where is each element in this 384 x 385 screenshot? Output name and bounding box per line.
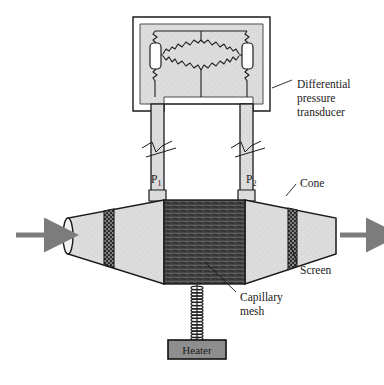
label-capillary-mesh: Capillary mesh (240, 290, 283, 318)
transducer-label-line-2: pressure (297, 91, 350, 105)
flowmeter-diagram (0, 0, 384, 385)
label-differential-pressure-transducer: Differential pressure transducer (297, 77, 350, 119)
cone-leader-line (286, 184, 296, 196)
transducer-label-line-1: Differential (297, 77, 350, 91)
p1-subscript: 1 (157, 179, 161, 188)
left-cone-body (68, 200, 164, 284)
label-heater: Heater (175, 344, 219, 356)
right-screen (288, 208, 297, 270)
p2-subscript: 2 (252, 179, 256, 188)
capillary-mesh (164, 200, 245, 292)
left-screen (104, 209, 114, 268)
capillary-mesh-block (164, 200, 245, 284)
label-pressure-tap-2: P2 (246, 172, 256, 191)
left-capsule-body (150, 43, 161, 69)
label-screen: Screen (300, 263, 331, 277)
label-cone: Cone (300, 176, 324, 190)
transducer-label-line-3: transducer (297, 105, 350, 119)
differential-pressure-transducer (133, 17, 292, 111)
capillary-label-line-2: mesh (240, 304, 283, 318)
capillary-label-line-1: Capillary (240, 290, 283, 304)
label-pressure-tap-1: P1 (151, 172, 161, 191)
left-cone-inlet-mouth (63, 218, 73, 254)
transducer-leader-line (272, 80, 292, 88)
right-capsule-body (242, 43, 253, 69)
left-cone (63, 200, 164, 284)
